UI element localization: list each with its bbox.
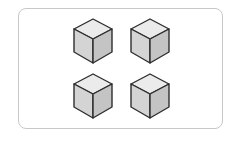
cube-icon (74, 74, 112, 118)
cube-icon (131, 19, 169, 63)
cube-grid (0, 0, 235, 142)
cube-icon (74, 19, 112, 63)
cube-icon (131, 74, 169, 118)
